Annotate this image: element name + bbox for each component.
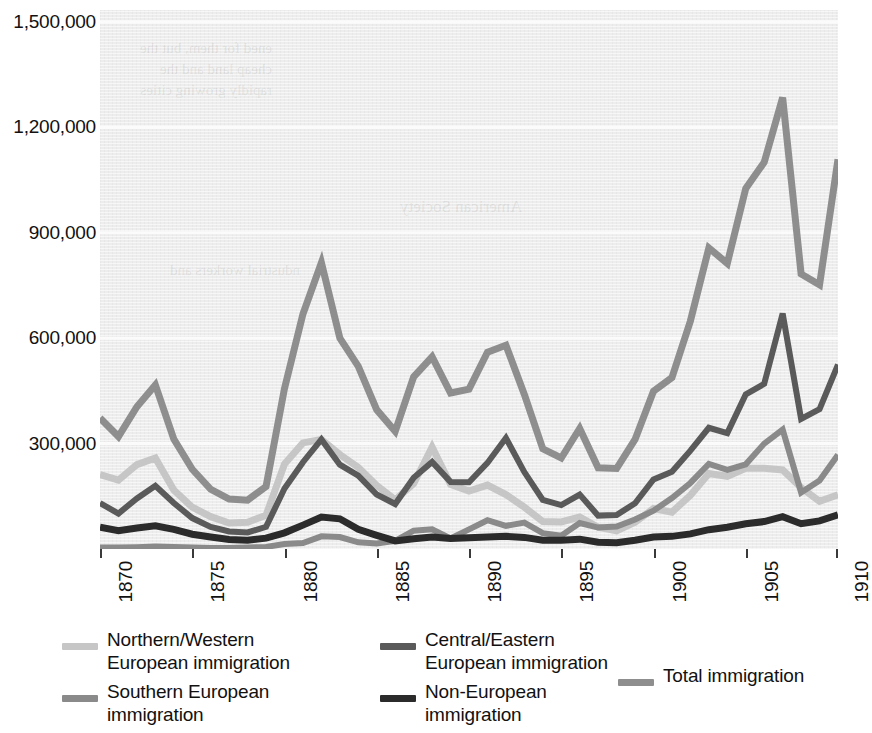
legend-swatch-southern (62, 695, 98, 702)
x-tick-label: 1870 (116, 561, 135, 602)
y-tick-label: 600,000 (0, 328, 96, 347)
x-axis: 187018751880188518901895190019051910 (100, 549, 838, 619)
chart-legend: Northern/Western European immigrationCen… (0, 624, 859, 733)
plot-area: ened for them, but the cheap land and th… (100, 10, 838, 549)
legend-item-southern[interactable]: Southern European immigration (62, 680, 317, 726)
y-axis: 1,500,0001,200,000900,000600,000300,000 (0, 0, 96, 560)
x-tick-label: 1900 (670, 561, 689, 602)
legend-label-total: Total immigration (663, 664, 804, 687)
x-tick-label: 1880 (301, 561, 320, 602)
legend-swatch-total (618, 679, 654, 686)
x-tick-label: 1875 (208, 561, 227, 602)
legend-label-central-eastern: Central/Eastern European immigration (425, 628, 608, 674)
y-tick-label: 1,200,000 (0, 117, 96, 136)
x-tick-mark (285, 549, 287, 558)
x-tick-mark (561, 549, 563, 558)
x-tick-label: 1910 (852, 561, 871, 602)
y-tick-label: 900,000 (0, 223, 96, 242)
legend-swatch-northern-western (62, 643, 98, 650)
legend-item-non-european[interactable]: Non-European immigration (380, 680, 635, 726)
x-tick-mark (746, 549, 748, 558)
plot-svg (100, 10, 838, 549)
legend-item-northern-western[interactable]: Northern/Western European immigration (62, 628, 317, 674)
x-tick-mark (100, 549, 102, 558)
series-line-total-immigration (100, 98, 838, 501)
legend-swatch-non-european (380, 695, 416, 702)
x-tick-label: 1890 (485, 561, 504, 602)
legend-label-non-european: Non-European immigration (425, 680, 547, 726)
series-line-central-eastern-european-immigration (100, 314, 838, 533)
legend-swatch-central-eastern (380, 643, 416, 650)
legend-item-total[interactable]: Total immigration (618, 664, 848, 687)
x-tick-mark (654, 549, 656, 558)
x-tick-mark (192, 549, 194, 558)
x-tick-label: 1905 (762, 561, 781, 602)
x-tick-mark (469, 549, 471, 558)
x-tick-label: 1885 (393, 561, 412, 602)
legend-label-northern-western: Northern/Western European immigration (107, 628, 290, 674)
y-tick-label: 1,500,000 (0, 12, 96, 31)
x-tick-mark (377, 549, 379, 558)
x-tick-mark (836, 549, 838, 558)
y-tick-label: 300,000 (0, 434, 96, 453)
legend-item-central-eastern[interactable]: Central/Eastern European immigration (380, 628, 635, 674)
x-tick-label: 1895 (577, 561, 596, 602)
legend-label-southern: Southern European immigration (107, 680, 269, 726)
